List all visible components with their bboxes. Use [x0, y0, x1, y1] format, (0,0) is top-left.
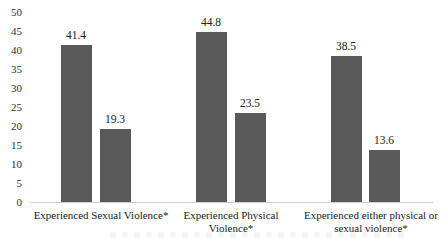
- bar-chart: 0 5 10 15 20 25 30 35 40 45 50 41.4 19.3…: [0, 0, 446, 243]
- y-tick-50: 50: [0, 6, 22, 18]
- y-tick-40: 40: [0, 44, 22, 56]
- y-tick-10: 10: [0, 158, 22, 170]
- y-tick-25: 25: [0, 101, 22, 113]
- y-tick-15: 15: [0, 139, 22, 151]
- bar-physical-violence-series1: [196, 32, 227, 202]
- y-tick-30: 30: [0, 82, 22, 94]
- category-label-line: Experienced Physical: [166, 209, 296, 222]
- bar-value-label: 13.6: [364, 134, 404, 146]
- bar-sexual-violence-series1: [61, 45, 92, 202]
- y-tick-5: 5: [0, 177, 22, 189]
- category-label-sexual-violence: Experienced Sexual Violence*: [26, 209, 176, 222]
- bar-value-label: 23.5: [230, 97, 270, 109]
- bar-value-label: 44.8: [191, 16, 231, 28]
- bar-physical-violence-series2: [235, 113, 266, 202]
- bar-sexual-violence-series2: [100, 129, 131, 202]
- y-tick-0: 0: [0, 196, 22, 208]
- category-label-line: Experienced either physical or: [296, 209, 446, 222]
- faint-footnote-bleed: [110, 232, 410, 238]
- bar-value-label: 19.3: [95, 113, 135, 125]
- bar-value-label: 41.4: [56, 29, 96, 41]
- bar-value-label: 38.5: [326, 40, 366, 52]
- y-tick-20: 20: [0, 120, 22, 132]
- x-axis-line: [30, 202, 433, 203]
- bar-either-violence-series1: [331, 56, 362, 202]
- bar-either-violence-series2: [369, 150, 400, 202]
- y-tick-45: 45: [0, 25, 22, 37]
- y-tick-35: 35: [0, 63, 22, 75]
